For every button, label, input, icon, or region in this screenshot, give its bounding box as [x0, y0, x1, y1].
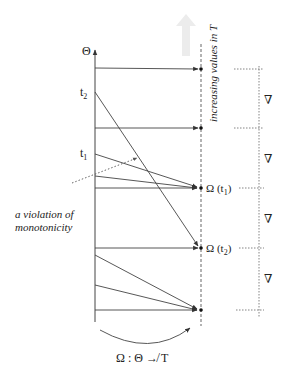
interval-label: ∇: [264, 212, 272, 226]
omega-t2-label: Ω (t2): [206, 242, 232, 257]
mapping-arrows: [95, 68, 198, 310]
mapping-arrow: [95, 285, 197, 310]
image-dot: [199, 126, 203, 130]
interval-label: ∇: [264, 272, 272, 286]
image-dot-omega-t2: [199, 246, 203, 250]
image-dot-omega-t1: [199, 186, 203, 190]
image-dot: [199, 308, 203, 312]
mapping-caption: Ω : Θ ↛ T: [116, 351, 169, 365]
increasing-direction-arrow: [176, 14, 196, 56]
monotonicity-diagram: Θ increasing values in T t2 t1 Ω (t1) Ω …: [0, 0, 284, 374]
theta-axis-label: Θ: [82, 44, 91, 58]
t1-label: t1: [80, 146, 87, 162]
violation-annotation-line1: a violation of: [15, 208, 76, 220]
omega-t1-label: Ω (t1): [206, 182, 232, 197]
image-dot: [199, 67, 203, 71]
interval-bracket: [234, 66, 264, 318]
mapping-arrow: [95, 68, 198, 69]
mapping-curve-arrow: [100, 328, 190, 344]
violation-annotation-line2: monotonicity: [15, 221, 73, 233]
interval-label: ∇: [264, 152, 272, 166]
violation-pointer: [72, 158, 137, 183]
t2-label: t2: [80, 85, 87, 101]
t-axis-caption: increasing values in T: [207, 24, 219, 122]
mapping-arrow-t2: [95, 92, 198, 246]
mapping-arrow: [95, 255, 197, 309]
interval-label: ∇: [264, 93, 272, 107]
